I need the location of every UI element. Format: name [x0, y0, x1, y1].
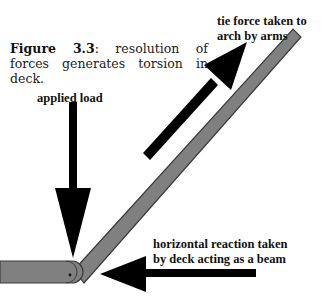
tie-force-arrow-shaft [143, 78, 218, 160]
joint-pin [69, 274, 72, 277]
applied-load-arrow-head [55, 188, 91, 258]
applied-load-label: applied load [37, 91, 103, 106]
horizontal-reaction-arrow-shaft [142, 269, 256, 277]
deck-beam [0, 261, 83, 283]
horizontal-reaction-arrow-head [100, 256, 146, 292]
horizontal-reaction-label-line2: by deck acting as a beam [153, 252, 287, 267]
force-diagram: Figure 3.3: resolution of forces generat… [0, 0, 322, 300]
tie-force-label: tie force taken to arch by arms [217, 14, 307, 44]
tie-force-label-line2: arch by arms [217, 29, 307, 44]
tie-force-label-line1: tie force taken to [217, 14, 307, 29]
horizontal-reaction-label: horizontal reaction taken by deck acting… [153, 237, 287, 267]
figure-caption: Figure 3.3: resolution of forces generat… [10, 41, 208, 86]
applied-load-arrow-shaft [69, 102, 77, 190]
horizontal-reaction-label-line1: horizontal reaction taken [153, 237, 287, 252]
figure-number: Figure 3.3 [10, 41, 95, 56]
